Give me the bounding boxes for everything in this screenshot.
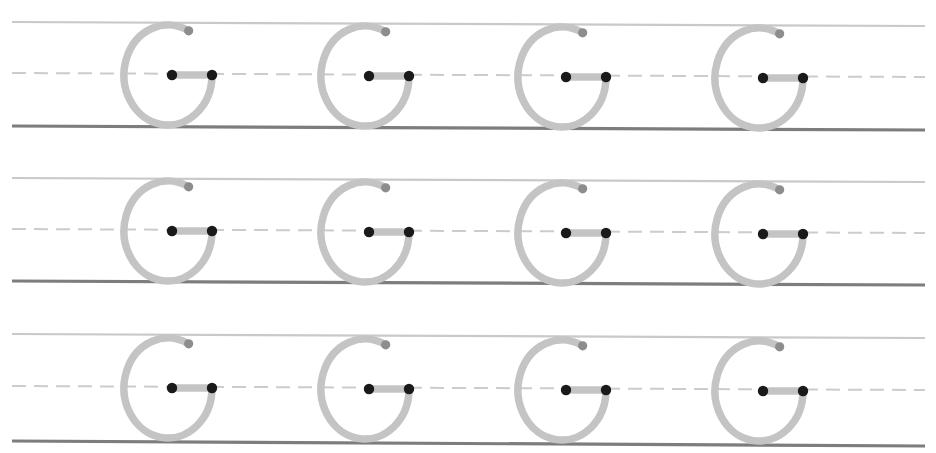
crossbar-start-dot <box>561 228 571 238</box>
top-guide-line <box>12 178 925 182</box>
crossbar-end-dot <box>404 227 414 237</box>
top-guide-line <box>12 334 925 338</box>
stroke-end-dot <box>184 339 193 348</box>
letter-g-glyph <box>124 338 217 438</box>
crossbar-start-dot <box>167 226 177 236</box>
letter-g-glyph <box>124 181 217 281</box>
stroke-end-dot <box>381 340 390 349</box>
crossbar-end-dot <box>601 72 611 82</box>
crossbar-end-dot <box>404 384 414 394</box>
letter-g-glyph <box>715 184 808 284</box>
letter-g-glyph <box>124 25 217 125</box>
crossbar-start-dot <box>758 386 768 396</box>
crossbar-start-dot <box>167 383 177 393</box>
stroke-end-dot <box>775 342 784 351</box>
crossbar-start-dot <box>561 72 571 82</box>
crossbar-end-dot <box>798 73 808 83</box>
crossbar-end-dot <box>207 70 217 80</box>
stroke-end-dot <box>184 26 193 35</box>
stroke-end-dot <box>184 182 193 191</box>
crossbar-start-dot <box>758 73 768 83</box>
crossbar-end-dot <box>207 383 217 393</box>
crossbar-start-dot <box>364 384 374 394</box>
crossbar-end-dot <box>798 386 808 396</box>
letter-g-glyph <box>715 341 808 441</box>
crossbar-end-dot <box>404 71 414 81</box>
letter-g-glyph <box>715 28 808 128</box>
letter-g-glyph <box>518 27 611 127</box>
letter-g-glyph <box>518 340 611 440</box>
top-guide-line <box>12 22 925 26</box>
stroke-end-dot <box>775 185 784 194</box>
baseline <box>12 126 925 130</box>
stroke-end-dot <box>578 341 587 350</box>
stroke-end-dot <box>381 183 390 192</box>
letter-g-glyph <box>321 339 414 439</box>
stroke-end-dot <box>381 27 390 36</box>
crossbar-start-dot <box>364 71 374 81</box>
letter-g-glyph <box>321 26 414 126</box>
crossbar-end-dot <box>207 226 217 236</box>
crossbar-start-dot <box>561 385 571 395</box>
crossbar-start-dot <box>167 70 177 80</box>
letter-g-glyph <box>518 183 611 283</box>
letter-g-glyph <box>321 182 414 282</box>
baseline <box>12 441 925 446</box>
stroke-end-dot <box>578 28 587 37</box>
crossbar-start-dot <box>364 227 374 237</box>
stroke-end-dot <box>578 184 587 193</box>
baseline <box>12 281 925 285</box>
tracing-worksheet <box>0 0 936 453</box>
crossbar-end-dot <box>798 229 808 239</box>
crossbar-end-dot <box>601 385 611 395</box>
crossbar-end-dot <box>601 228 611 238</box>
stroke-end-dot <box>775 29 784 38</box>
worksheet-canvas <box>0 0 936 453</box>
crossbar-start-dot <box>758 229 768 239</box>
